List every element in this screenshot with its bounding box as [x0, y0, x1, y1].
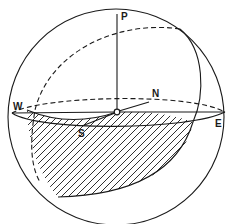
hatch-line: [132, 100, 231, 210]
sphere-outline: [8, 9, 224, 224]
hatch-line: [0, 100, 25, 210]
hatch-line: [0, 100, 32, 210]
label-pole: P: [121, 11, 128, 22]
hatch-line: [202, 100, 231, 210]
label-north: N: [152, 88, 159, 99]
hatched-region: [0, 100, 231, 210]
label-south: S: [78, 128, 85, 139]
north-line: [119, 102, 149, 111]
hatch-line: [34, 100, 144, 210]
hatch-line: [62, 100, 172, 210]
hatch-line: [0, 100, 4, 210]
hatch-line: [188, 100, 231, 210]
hatch-line: [76, 100, 186, 210]
hatch-line: [167, 100, 231, 210]
hatch-line: [55, 100, 165, 210]
celestial-sphere-diagram: P N S E W: [0, 0, 231, 224]
hatch-line: [230, 100, 231, 210]
hatch-line: [0, 100, 11, 210]
label-west: W: [13, 101, 23, 112]
hatch-line: [69, 100, 179, 210]
observer-point: [114, 109, 120, 115]
label-east: E: [215, 118, 222, 129]
hatch-line: [174, 100, 231, 210]
